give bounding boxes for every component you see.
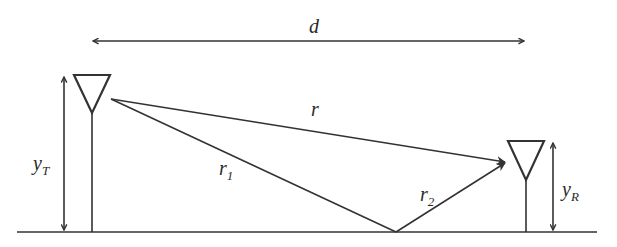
direct-ray-label: r <box>311 98 319 120</box>
reflected-ray-label: r2 <box>420 183 435 209</box>
incident-ray <box>111 99 396 232</box>
receiver-antenna-icon <box>508 141 544 180</box>
reflected-ray <box>396 163 505 232</box>
direct-ray <box>111 99 505 162</box>
receiver-antenna <box>508 141 544 232</box>
distance-label: d <box>309 15 320 37</box>
two-ray-diagram: d yT yR r r1 r2 <box>0 0 617 247</box>
transmitter-antenna-icon <box>74 75 110 113</box>
incident-ray-label: r1 <box>219 157 233 183</box>
transmitter-antenna <box>74 75 110 232</box>
tx-height-label: yT <box>31 152 50 178</box>
rx-height-label: yR <box>560 178 579 204</box>
